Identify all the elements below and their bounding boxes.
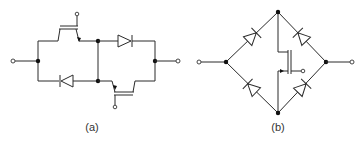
panel-b-label: (b) — [271, 121, 284, 133]
node-b-top — [276, 10, 280, 14]
circuit-diagram — [0, 0, 364, 144]
terminal-a-right — [176, 59, 180, 63]
node-a-left — [36, 59, 40, 63]
terminal-a-gate-bottom — [113, 105, 117, 109]
terminal-a-gate-top — [75, 12, 79, 16]
igbt-top-icon — [58, 12, 81, 42]
circuit-a — [11, 12, 180, 109]
panel-a-label: (a) — [85, 121, 98, 133]
terminal-b-gate — [301, 69, 305, 73]
diode-a-bottom-icon — [60, 75, 73, 87]
node-b-bottom — [276, 111, 280, 115]
terminal-b-right — [350, 60, 354, 64]
terminal-a-left — [11, 59, 15, 63]
node-b-left — [224, 60, 228, 64]
mosfet-b-center-icon — [278, 12, 305, 113]
diode-a-top-icon — [118, 35, 132, 47]
circuit-b — [197, 10, 354, 115]
igbt-bottom-icon — [112, 81, 135, 109]
terminal-b-left — [197, 60, 201, 64]
